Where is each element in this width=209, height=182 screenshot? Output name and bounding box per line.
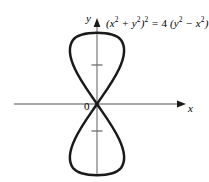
figure-canvas: (x2 + y2)2 = 4 (y2 − x2) y x 0	[0, 0, 209, 182]
x-axis-arrowhead-icon	[177, 101, 186, 108]
y-axis-label: y	[86, 13, 91, 24]
origin-label: 0	[84, 101, 90, 112]
equation-annotation: (x2 + y2)2 = 4 (y2 − x2)	[106, 18, 208, 29]
x-axis-label: x	[188, 103, 193, 114]
y-axis-arrowhead-icon	[94, 18, 101, 27]
